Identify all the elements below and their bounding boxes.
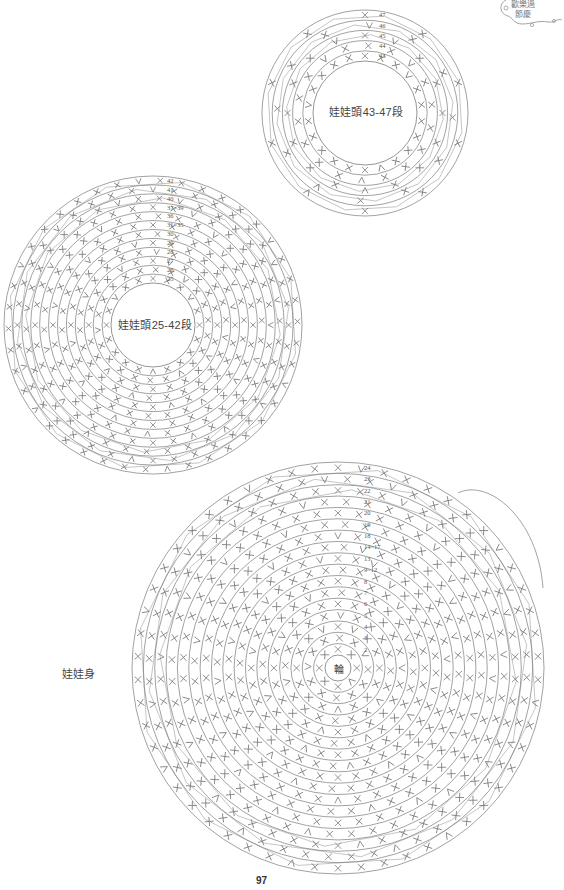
- single-crochet-x-icon: [320, 613, 328, 621]
- single-crochet-x-icon: [363, 693, 372, 702]
- single-crochet-x-icon: [419, 819, 428, 828]
- single-crochet-x-icon: [274, 585, 283, 594]
- single-crochet-x-icon: [428, 800, 437, 809]
- single-crochet-x-icon: [414, 631, 422, 639]
- single-crochet-x-icon: [278, 507, 286, 515]
- single-crochet-x-icon: [367, 744, 375, 752]
- single-crochet-x-icon: [74, 231, 82, 239]
- single-crochet-x-icon: [347, 690, 356, 699]
- single-crochet-x-icon: [161, 588, 169, 596]
- single-crochet-x-icon: [296, 94, 303, 101]
- single-crochet-x-icon: [214, 659, 221, 666]
- single-crochet-x-icon: [267, 628, 276, 637]
- single-crochet-x-icon: [335, 646, 341, 652]
- single-crochet-x-icon: [41, 327, 47, 333]
- increase-v-icon: [399, 499, 407, 507]
- increase-v-icon: [305, 594, 313, 602]
- single-crochet-x-icon: [160, 698, 167, 705]
- single-crochet-x-icon: [207, 574, 216, 583]
- single-crochet-x-icon: [280, 746, 289, 755]
- single-crochet-x-icon: [236, 784, 245, 793]
- single-crochet-x-icon: [475, 692, 483, 700]
- single-crochet-x-icon: [248, 508, 257, 517]
- single-crochet-x-icon: [296, 680, 304, 688]
- single-crochet-x-icon: [447, 769, 456, 778]
- single-crochet-x-icon: [163, 376, 169, 382]
- single-crochet-x-icon: [312, 488, 319, 495]
- single-crochet-x-icon: [370, 597, 379, 606]
- increase-v-icon: [448, 730, 457, 739]
- increase-v-icon: [335, 533, 341, 539]
- single-crochet-x-icon: [217, 351, 224, 358]
- single-crochet-x-icon: [484, 735, 493, 744]
- single-crochet-x-icon: [248, 302, 254, 308]
- single-crochet-x-icon: [135, 196, 141, 202]
- single-crochet-x-icon: [401, 577, 410, 586]
- increase-v-icon: [253, 357, 260, 364]
- single-crochet-x-icon: [105, 421, 112, 428]
- single-crochet-x-icon: [317, 689, 326, 698]
- single-crochet-x-icon: [211, 712, 219, 720]
- single-crochet-x-icon: [166, 384, 173, 391]
- single-crochet-x-icon: [260, 677, 267, 684]
- single-crochet-x-icon: [254, 697, 262, 705]
- single-crochet-x-icon: [422, 665, 428, 671]
- single-crochet-x-icon: [94, 404, 101, 411]
- single-crochet-x-icon: [195, 276, 203, 284]
- single-crochet-x-icon: [306, 54, 315, 63]
- single-crochet-x-icon: [232, 322, 237, 327]
- single-crochet-x-icon: [383, 607, 392, 616]
- single-crochet-x-icon: [477, 651, 484, 658]
- single-crochet-x-icon: [352, 772, 359, 779]
- single-crochet-x-icon: [66, 251, 74, 259]
- single-crochet-x-icon: [211, 616, 219, 624]
- single-crochet-x-icon: [480, 612, 488, 620]
- increase-v-icon: [444, 656, 451, 663]
- single-crochet-x-icon: [301, 584, 309, 592]
- single-crochet-x-icon: [52, 341, 58, 347]
- increase-v-icon: [317, 726, 325, 734]
- body-title: 娃娃身: [62, 665, 95, 681]
- single-crochet-x-icon: [171, 634, 178, 641]
- single-crochet-x-icon: [326, 831, 333, 838]
- single-crochet-x-icon: [386, 567, 395, 576]
- single-crochet-x-icon: [329, 785, 336, 792]
- single-crochet-x-icon: [251, 380, 258, 387]
- increase-v-icon: [190, 211, 197, 218]
- increase-v-icon: [278, 632, 287, 641]
- single-crochet-x-icon: [378, 725, 387, 734]
- single-crochet-x-icon: [189, 360, 197, 368]
- single-crochet-x-icon: [162, 743, 170, 751]
- single-crochet-x-icon: [272, 647, 280, 655]
- single-crochet-x-icon: [304, 693, 313, 702]
- single-crochet-x-icon: [355, 511, 362, 518]
- crochet-chart-canvas: 434445464725262728293031~353637~39404142…: [0, 0, 564, 890]
- single-crochet-x-icon: [365, 666, 372, 673]
- increase-v-icon: [444, 831, 453, 840]
- single-crochet-x-icon: [366, 781, 374, 789]
- single-crochet-x-icon: [494, 588, 503, 597]
- single-crochet-x-icon: [400, 700, 409, 709]
- single-crochet-x-icon: [254, 492, 262, 500]
- single-crochet-x-icon: [447, 707, 455, 715]
- single-crochet-x-icon: [180, 388, 187, 395]
- single-crochet-x-icon: [415, 163, 424, 172]
- single-crochet-x-icon: [414, 531, 423, 540]
- single-crochet-x-icon: [392, 61, 400, 69]
- single-crochet-x-icon: [146, 678, 153, 685]
- single-crochet-x-icon: [253, 738, 262, 747]
- single-crochet-x-icon: [265, 852, 273, 860]
- single-crochet-x-icon: [400, 536, 409, 545]
- row-number-label: 4: [364, 623, 368, 630]
- single-crochet-x-icon: [391, 545, 400, 554]
- single-crochet-x-icon: [206, 598, 215, 607]
- single-crochet-x-icon: [205, 635, 213, 643]
- single-crochet-x-icon: [33, 322, 38, 327]
- single-crochet-x-icon: [309, 133, 317, 141]
- single-crochet-x-icon: [196, 592, 205, 601]
- single-crochet-x-icon: [244, 843, 253, 852]
- single-crochet-x-icon: [512, 653, 519, 660]
- single-crochet-x-icon: [305, 619, 314, 628]
- single-crochet-x-icon: [90, 219, 97, 226]
- increase-v-icon: [183, 696, 191, 704]
